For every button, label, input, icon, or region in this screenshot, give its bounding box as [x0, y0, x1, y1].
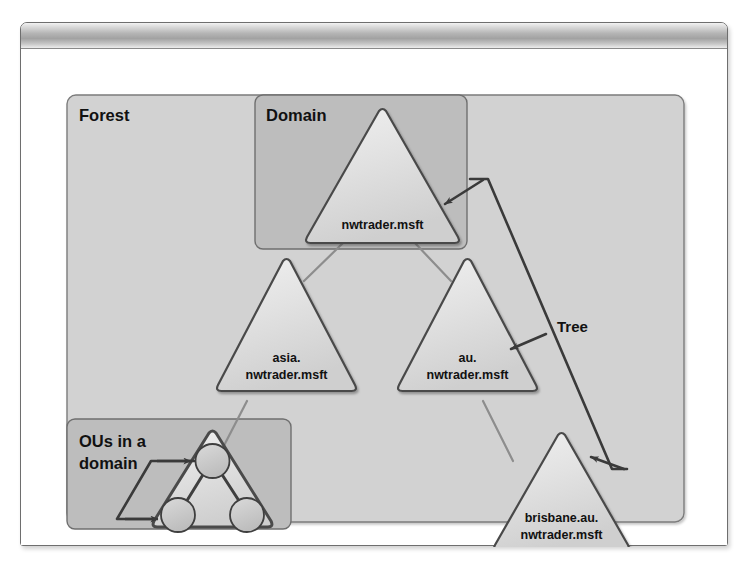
- window-frame: Forest Domain OUs in a domain: [20, 22, 728, 546]
- ous-label-line1: OUs in a: [79, 432, 147, 450]
- au-label-line2: nwtrader.msft: [427, 368, 510, 382]
- window-titlebar[interactable]: [21, 23, 727, 49]
- brisbane-label-line1: brisbane.au.: [525, 511, 599, 525]
- ou-circle-right[interactable]: [230, 498, 264, 532]
- root-label-line1: nwtrader.msft: [342, 218, 425, 232]
- screenshot-root: Forest Domain OUs in a domain: [0, 0, 749, 575]
- window-body: Forest Domain OUs in a domain: [21, 49, 727, 545]
- forest-label: Forest: [79, 106, 130, 124]
- asia-label-line1: asia.: [273, 351, 301, 365]
- asia-label-line2: nwtrader.msft: [246, 368, 329, 382]
- ous-label-line2: domain: [79, 454, 138, 472]
- ou-circle-top[interactable]: [196, 444, 230, 478]
- brisbane-label-line2: nwtrader.msft: [521, 528, 604, 542]
- domain-label: Domain: [266, 106, 327, 124]
- tree-label: Tree: [557, 318, 588, 335]
- au-label-line1: au.: [458, 351, 476, 365]
- ou-circle-left[interactable]: [161, 498, 195, 532]
- forest-diagram: Forest Domain OUs in a domain: [21, 49, 729, 547]
- diagram-svg: Forest Domain OUs in a domain: [21, 49, 729, 547]
